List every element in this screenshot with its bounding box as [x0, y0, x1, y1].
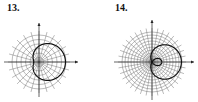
- polar-plot-14: [114, 20, 194, 100]
- polar-plots: [0, 0, 198, 102]
- polar-plot-13: [4, 23, 78, 97]
